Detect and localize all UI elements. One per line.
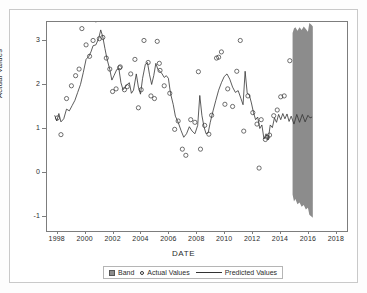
y-axis-tick-label: 2 <box>22 80 40 87</box>
actual-value-marker <box>129 72 133 76</box>
actual-value-marker <box>74 74 78 78</box>
actual-value-marker <box>255 122 259 126</box>
actual-value-marker <box>136 106 140 110</box>
x-axis-tick-label: 2000 <box>75 235 95 242</box>
x-axis-tick-label: 2010 <box>214 235 234 242</box>
actual-value-marker <box>157 61 161 65</box>
actual-value-marker <box>257 166 261 170</box>
actual-value-marker <box>226 87 230 91</box>
legend-label-actual: Actual Values <box>147 269 189 276</box>
actual-value-marker <box>146 60 150 64</box>
actual-value-marker <box>180 147 184 151</box>
actual-value-marker <box>230 104 234 108</box>
plot-graphics <box>47 22 347 231</box>
legend-entry-band: Band <box>109 269 134 276</box>
actual-value-marker <box>198 147 202 151</box>
actual-value-marker <box>168 91 172 95</box>
x-axis-tick-label: 2018 <box>326 235 346 242</box>
band-swatch-icon <box>109 270 115 276</box>
legend-label-predicted: Predicted Values <box>225 269 277 276</box>
actual-values-markers <box>55 22 292 170</box>
actual-value-marker <box>223 102 227 106</box>
actual-value-marker <box>272 114 276 118</box>
legend-entry-actual: Actual Values <box>140 269 189 276</box>
y-axis-tick-label: 0 <box>22 168 40 175</box>
actual-value-marker <box>162 84 166 88</box>
legend-label-band: Band <box>118 269 134 276</box>
x-axis-tick-label: 2004 <box>130 235 150 242</box>
y-axis-tick-label: 1 <box>22 124 40 131</box>
actual-value-marker <box>173 127 177 131</box>
actual-value-marker <box>142 38 146 42</box>
actual-value-marker <box>91 38 95 42</box>
actual-value-marker <box>114 87 118 91</box>
actual-value-marker <box>84 43 88 47</box>
x-axis-tick-label: 2012 <box>242 235 262 242</box>
actual-value-marker <box>193 120 197 124</box>
actual-value-marker <box>259 118 263 122</box>
y-axis-title: Actual Values <box>0 49 4 98</box>
predicted-values-line <box>55 30 312 140</box>
actual-value-marker <box>77 67 81 71</box>
chart-screenshot: Actual Values 19982000200220042006200820… <box>0 0 367 293</box>
actual-value-marker <box>219 50 223 54</box>
open-circle-icon <box>140 271 144 275</box>
x-axis-tick-label: 2006 <box>158 235 178 242</box>
x-axis-tick-label: 1998 <box>47 235 67 242</box>
y-axis-tick-label: -1 <box>22 212 40 219</box>
actual-value-marker <box>184 153 188 157</box>
actual-value-marker <box>152 96 156 100</box>
actual-value-marker <box>64 96 68 100</box>
actual-value-marker <box>189 118 193 122</box>
x-axis-tick-label: 2016 <box>298 235 318 242</box>
chart-legend: Band Actual Values Predicted Values <box>103 266 283 279</box>
actual-value-marker <box>59 133 63 137</box>
actual-value-marker <box>235 69 239 73</box>
actual-value-marker <box>242 129 246 133</box>
legend-entry-predicted: Predicted Values <box>196 269 277 276</box>
actual-value-marker <box>155 39 159 43</box>
actual-value-marker <box>207 132 211 136</box>
actual-value-marker <box>80 27 84 31</box>
actual-value-marker <box>203 123 207 127</box>
x-axis-tick-label: 2002 <box>103 235 123 242</box>
actual-value-marker <box>238 38 242 42</box>
actual-value-marker <box>288 59 292 63</box>
forecast-band <box>293 23 313 218</box>
actual-value-marker <box>69 84 73 88</box>
actual-value-marker <box>133 57 137 61</box>
x-axis-tick-label: 2014 <box>270 235 290 242</box>
x-axis-title: DATE <box>0 249 367 258</box>
x-axis-tick-label: 2008 <box>186 235 206 242</box>
line-swatch-icon <box>196 272 222 273</box>
y-axis-tick-label: 3 <box>22 36 40 43</box>
actual-value-marker <box>196 70 200 74</box>
actual-value-marker <box>275 108 279 112</box>
plot-area <box>46 21 348 232</box>
